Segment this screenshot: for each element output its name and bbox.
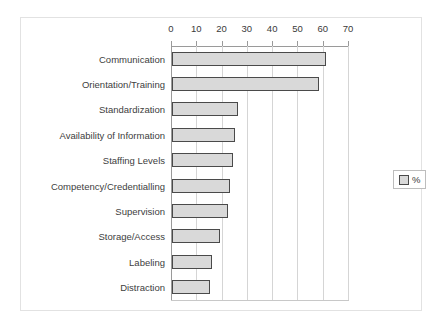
plot-area xyxy=(171,46,348,300)
x-tick-label-20: 20 xyxy=(216,23,227,34)
category-label-0: Communication xyxy=(99,53,165,64)
x-tick-label-60: 60 xyxy=(317,23,328,34)
legend-label-percent: % xyxy=(412,174,420,185)
category-label-1: Orientation/Training xyxy=(82,79,165,90)
x-tick-label-30: 30 xyxy=(242,23,253,34)
category-label-6: Supervision xyxy=(115,206,165,217)
category-label-2: Standardization xyxy=(99,104,165,115)
category-label-9: Distraction xyxy=(120,282,165,293)
x-tick-label-50: 50 xyxy=(292,23,303,34)
legend-swatch-percent xyxy=(399,175,409,185)
category-label-3: Availability of Information xyxy=(60,129,165,140)
chart-figure: 010203040506070 CommunicationOrientation… xyxy=(20,17,422,311)
category-label-5: Competency/Credentialling xyxy=(51,180,165,191)
x-tick-label-10: 10 xyxy=(191,23,202,34)
plot-bottom-line xyxy=(171,300,349,301)
category-label-4: Staffing Levels xyxy=(103,155,165,166)
x-tick-label-70: 70 xyxy=(343,23,354,34)
x-tick-label-40: 40 xyxy=(267,23,278,34)
category-label-7: Storage/Access xyxy=(98,231,165,242)
x-tick-label-0: 0 xyxy=(168,23,173,34)
category-label-8: Labeling xyxy=(129,256,165,267)
chart-legend: % xyxy=(393,170,426,189)
